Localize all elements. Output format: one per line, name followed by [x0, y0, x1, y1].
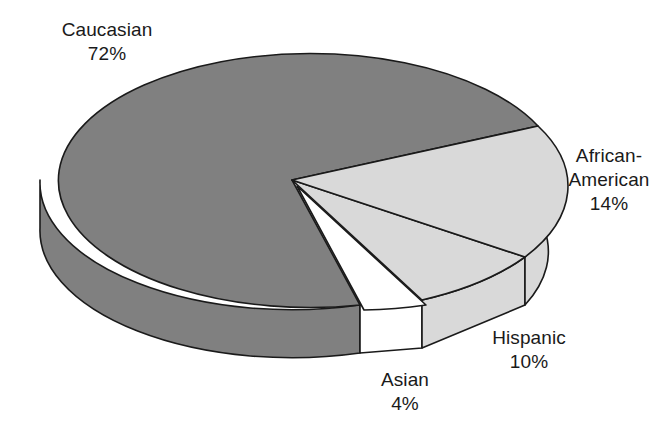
slice-label-hispanic-name: Hispanic — [483, 326, 575, 350]
pie-top-faces — [58, 53, 568, 310]
slice-label-african-american-name-line1: African- — [560, 144, 658, 168]
slice-label-asian-value: 4% — [371, 392, 439, 416]
slice-label-hispanic: Hispanic 10% — [483, 326, 575, 374]
pie-chart: Caucasian 72% African- American 14% Hisp… — [0, 0, 667, 440]
slice-label-african-american: African- American 14% — [560, 144, 658, 216]
slice-label-hispanic-value: 10% — [483, 350, 575, 374]
slice-label-african-american-name-line2: American — [560, 168, 658, 192]
slice-label-caucasian-name: Caucasian — [55, 18, 159, 42]
slice-label-asian-name: Asian — [371, 368, 439, 392]
slice-label-asian: Asian 4% — [371, 368, 439, 416]
pie-chart-graphic — [0, 0, 667, 440]
slice-label-african-american-value: 14% — [560, 192, 658, 216]
slice-label-caucasian: Caucasian 72% — [55, 18, 159, 66]
slice-label-caucasian-value: 72% — [55, 42, 159, 66]
